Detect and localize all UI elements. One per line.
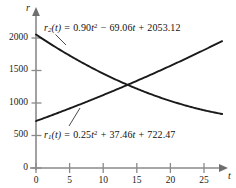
r1-operator-2: + — [138, 129, 145, 140]
r2-term2-coefficient: 69.06 — [109, 22, 132, 33]
x-axis-name-label: t — [228, 170, 231, 181]
r2-term2-variable: t — [132, 22, 135, 33]
r1-operator-1: + — [100, 129, 107, 140]
y-tick-label: 500 — [0, 129, 28, 139]
r1-constant: 722.47 — [147, 129, 175, 140]
r1-term1-coefficient: 0.25 — [73, 129, 91, 140]
x-tick-label: 10 — [93, 175, 113, 185]
x-tick-label: 25 — [194, 175, 214, 185]
x-tick-label: 5 — [60, 175, 80, 185]
equation-label-r2: r2(t) = 0.90t2 − 69.06t + 2053.12 — [44, 22, 181, 33]
x-tick-label: 20 — [160, 175, 180, 185]
r2-equals: = — [64, 22, 71, 33]
r2-term1-exponent: 2 — [94, 22, 98, 29]
y-axis — [32, 7, 40, 170]
r2-operator-1: − — [100, 22, 107, 33]
r1-equals: = — [64, 129, 71, 140]
r2-argument: (t) — [52, 22, 62, 33]
leader-line-r2 — [56, 35, 67, 46]
curve-r2 — [36, 35, 222, 114]
r1-term2-coefficient: 37.46 — [109, 129, 132, 140]
y-tick-label: 1000 — [0, 97, 28, 107]
y-axis-name: r — [26, 2, 30, 13]
y-tick-label: 0 — [0, 162, 28, 172]
x-axis — [30, 164, 228, 172]
r2-term1-coefficient: 0.90 — [73, 22, 91, 33]
x-tick-label: 15 — [127, 175, 147, 185]
y-tick-label: 2000 — [0, 32, 28, 42]
figure-quadratic-revenue-curves: r t 2000 1500 1000 500 0 0 5 10 15 20 25… — [0, 0, 236, 188]
equation-label-r1: r1(t) = 0.25t2 + 37.46t + 722.47 — [44, 129, 175, 140]
r1-argument: (t) — [52, 129, 62, 140]
y-axis-name-label: r — [26, 2, 30, 13]
y-tick-label: 1500 — [0, 64, 28, 74]
x-tick-label: 0 — [26, 175, 46, 185]
x-axis-name: t — [228, 170, 231, 181]
r2-constant: 2053.12 — [147, 22, 180, 33]
r2-operator-2: + — [138, 22, 145, 33]
leader-line-r1 — [69, 108, 80, 126]
r1-term1-exponent: 2 — [94, 129, 98, 136]
r1-term2-variable: t — [132, 129, 135, 140]
